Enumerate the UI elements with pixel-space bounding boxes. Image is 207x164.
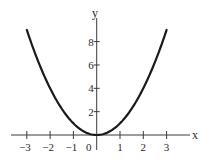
x-tick-label: −3 [19, 141, 31, 153]
x-axis-label: x [192, 128, 198, 142]
y-ticks: 2468 [88, 36, 100, 118]
x-tick-label: 1 [117, 141, 123, 153]
parabola-chart: x y −3−2−10123 2468 [0, 0, 207, 164]
x-tick-label: −1 [66, 141, 78, 153]
x-tick-label: −2 [42, 141, 54, 153]
axes: x y [11, 6, 198, 150]
x-tick-label: 0 [86, 141, 92, 153]
y-axis-label: y [92, 6, 98, 20]
y-tick-label: 2 [88, 106, 94, 118]
x-tick-label: 3 [164, 141, 170, 153]
y-tick-label: 4 [88, 82, 94, 94]
y-tick-label: 6 [88, 59, 94, 71]
x-tick-label: 2 [141, 141, 147, 153]
y-tick-label: 8 [88, 36, 94, 48]
